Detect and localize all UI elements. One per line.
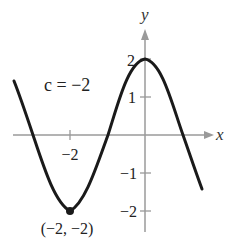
y-tick-label-2: 2	[127, 52, 135, 69]
annotation-c-value: c = −2	[44, 75, 90, 95]
cosine-graph: y x −2 2 1 −1 −2 c = −2 (−2, −2)	[0, 0, 228, 242]
y-tick-label-minus2: −2	[120, 203, 137, 220]
y-axis-label: y	[139, 5, 149, 24]
y-tick-label-1: 1	[128, 89, 136, 106]
x-tick-label-minus2: −2	[61, 146, 78, 163]
x-axis-arrow-icon	[204, 131, 214, 139]
y-axis-arrow-icon	[141, 29, 149, 40]
x-axis-label: x	[215, 125, 224, 144]
y-tick-label-minus1: −1	[120, 165, 137, 182]
minimum-point	[66, 207, 74, 215]
point-label: (−2, −2)	[41, 220, 94, 238]
